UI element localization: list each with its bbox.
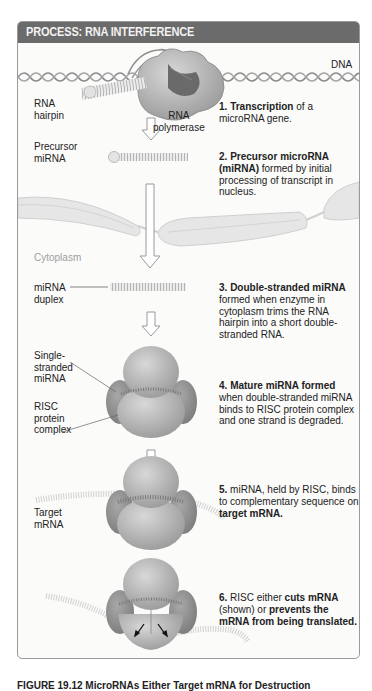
step-highlight: Mature miRNA formed [230, 380, 335, 391]
label-line: protein [34, 413, 65, 424]
step-number: 1. [219, 101, 227, 112]
process-panel: PROCESS: RNA INTERFERENCE [17, 21, 360, 659]
step-3: 3. Double-stranded miRNA formed when enz… [219, 282, 359, 341]
label-line: Precursor [34, 141, 77, 152]
step-4: 4. Mature miRNA formed when double-stran… [219, 380, 359, 427]
label-line: stranded [34, 362, 73, 373]
label-rna-hairpin: RNA hairpin [34, 98, 64, 121]
figure-caption: FIGURE 19.12 MicroRNAs Either Target mRN… [17, 680, 310, 691]
step-text: miRNA, held by RISC, binds to complement… [219, 484, 359, 507]
label-line: polymerase [153, 122, 205, 133]
step-highlight: cuts mRNA [285, 592, 339, 603]
step-highlight: Double-stranded miRNA [230, 282, 346, 293]
step-text: when double-stranded miRNA binds to RISC… [219, 392, 354, 427]
label-dna: DNA [331, 59, 352, 71]
step-text: formed when enzyme in cytoplasm trims th… [219, 294, 337, 340]
mirna-duplex [70, 283, 186, 291]
label-line: duplex [34, 294, 63, 305]
label-target-mrna: Target mRNA [34, 507, 63, 530]
step-highlight: target mRNA. [219, 508, 283, 519]
label-line: miRNA [34, 153, 66, 164]
risc-target-mrna [36, 456, 224, 550]
label-line: complex [34, 424, 71, 435]
label-line: RISC [34, 401, 58, 412]
step-6: 6. RISC either cuts mRNA (shown) or prev… [219, 592, 359, 627]
label-line: mRNA [34, 519, 63, 530]
label-line: hairpin [34, 110, 64, 121]
label-cytoplasm: Cytoplasm [34, 252, 81, 264]
step-number: 4. [219, 380, 227, 391]
label-line: RNA [168, 110, 189, 121]
risc-cutting-mrna [46, 558, 248, 650]
label-risc-complex: RISC protein complex [34, 401, 71, 436]
step-number: 3. [219, 282, 227, 293]
label-rna-polymerase: RNA polymerase [153, 110, 205, 133]
step-highlight: Transcription [230, 101, 293, 112]
down-arrow-icon [140, 184, 160, 268]
step-number: 2. [219, 151, 227, 162]
step-5: 5. miRNA, held by RISC, binds to complem… [219, 484, 359, 519]
rna-hairpin-strand [81, 77, 146, 98]
step-text: (shown) or [219, 604, 269, 615]
step-text: RISC either [227, 592, 284, 603]
label-line: Target [34, 507, 62, 518]
label-single-stranded-mirna: Single- stranded miRNA [34, 350, 73, 385]
label-line: RNA [34, 98, 55, 109]
risc-complex [62, 346, 197, 438]
label-line: miRNA [34, 373, 66, 384]
label-line: miRNA [34, 282, 66, 293]
precursor-mirna-strand [109, 152, 189, 163]
label-precursor-mirna: Precursor miRNA [34, 141, 77, 164]
label-mirna-duplex: miRNA duplex [34, 282, 66, 305]
label-line: Single- [34, 350, 65, 361]
down-arrow-icon [142, 312, 160, 336]
step-2: 2. Precursor microRNA (miRNA) formed by … [219, 151, 359, 198]
step-1: 1. Transcription of a microRNA gene. [219, 101, 359, 125]
